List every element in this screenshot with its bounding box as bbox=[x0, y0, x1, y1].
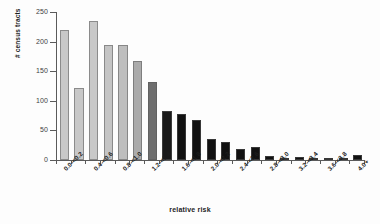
x-axis-tick bbox=[173, 160, 174, 164]
y-axis-tick bbox=[50, 130, 56, 131]
bar-slot bbox=[116, 12, 131, 160]
y-axis-tick bbox=[50, 71, 56, 72]
x-axis-tick bbox=[56, 160, 57, 164]
y-axis-tick-label: 100 bbox=[8, 97, 48, 104]
x-axis-tick bbox=[261, 160, 262, 164]
x-axis-title: relative risk bbox=[0, 206, 380, 213]
y-axis-tick-label: 200 bbox=[8, 38, 48, 45]
bar-slot bbox=[306, 12, 321, 160]
bar-slot bbox=[160, 12, 175, 160]
bar bbox=[295, 157, 304, 160]
bar bbox=[60, 30, 69, 160]
bar-slot bbox=[321, 12, 336, 160]
x-axis-tick bbox=[144, 160, 145, 164]
bar bbox=[353, 155, 362, 160]
bar-slot bbox=[86, 12, 101, 160]
bar-slot bbox=[292, 12, 307, 160]
bar-slot bbox=[336, 12, 351, 160]
x-axis-tick bbox=[203, 160, 204, 164]
bar-slot bbox=[204, 12, 219, 160]
bar-slot bbox=[174, 12, 189, 160]
bar bbox=[133, 61, 142, 160]
bar-slot bbox=[189, 12, 204, 160]
bar bbox=[236, 149, 245, 160]
x-axis-tick bbox=[320, 160, 321, 164]
y-axis-tick-label: 0 bbox=[8, 156, 48, 163]
bar-slot bbox=[57, 12, 72, 160]
y-axis-tick-label: 150 bbox=[8, 67, 48, 74]
bar bbox=[265, 156, 274, 160]
x-axis-tick bbox=[232, 160, 233, 164]
bar-slot bbox=[262, 12, 277, 160]
bar bbox=[118, 45, 127, 160]
bar-slot bbox=[130, 12, 145, 160]
y-axis-tick-label: 50 bbox=[8, 126, 48, 133]
bar-slot bbox=[101, 12, 116, 160]
bar-slot bbox=[350, 12, 365, 160]
y-axis-tick bbox=[50, 42, 56, 43]
bar bbox=[89, 21, 98, 160]
bar-slot bbox=[277, 12, 292, 160]
y-axis-tick bbox=[50, 12, 56, 13]
bar-slot bbox=[218, 12, 233, 160]
bar bbox=[207, 139, 216, 160]
y-axis-tick-label: 250 bbox=[8, 8, 48, 15]
bar-slot bbox=[248, 12, 263, 160]
bar bbox=[177, 114, 186, 160]
x-axis-tick bbox=[115, 160, 116, 164]
x-axis-tick bbox=[291, 160, 292, 164]
bar bbox=[104, 45, 113, 160]
bar-slot bbox=[233, 12, 248, 160]
y-axis-title: # census tracts bbox=[14, 44, 21, 58]
bar-slot bbox=[72, 12, 87, 160]
bar-chart: # census tracts 050100150200250 0.0-<0.2… bbox=[0, 0, 380, 224]
bar bbox=[148, 82, 157, 160]
x-axis-tick bbox=[85, 160, 86, 164]
bar-series bbox=[57, 12, 365, 160]
y-axis-tick bbox=[50, 101, 56, 102]
bar-slot bbox=[145, 12, 160, 160]
x-axis-tick bbox=[349, 160, 350, 164]
